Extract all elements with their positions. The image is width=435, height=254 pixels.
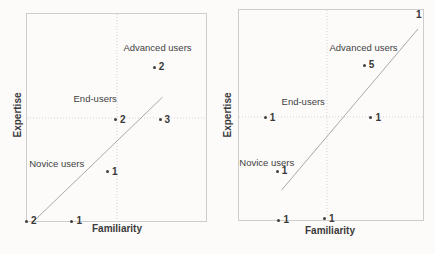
point-dot-icon [264,116,267,119]
region-label: Advanced users [330,41,398,52]
point-dot-icon [363,64,366,67]
scatter-figure: Expertise Advanced usersEnd-usersNovice … [0,0,435,254]
data-point: 1 [323,214,335,224]
data-point: 3 [159,115,171,125]
point-count-label: 1 [270,113,276,123]
data-point: 1 [277,215,289,225]
point-count-label: 1 [416,10,422,20]
plot-area-right: Advanced usersEnd-usersNovice users15111… [238,9,424,221]
region-label: End-users [282,96,325,107]
point-count-label: 2 [159,62,165,72]
region-label: Novice users [29,158,84,169]
data-point: 1 [264,113,276,123]
region-label: Advanced users [123,41,191,52]
x-axis-label: Familiarity [305,225,355,236]
plot-area-left: Advanced usersEnd-usersNovice users22312… [26,13,207,222]
point-dot-icon [25,220,28,223]
y-axis-label: Expertise [12,92,23,137]
trend-line [282,29,419,190]
point-count-label: 5 [369,60,375,70]
point-dot-icon [276,170,279,173]
data-point: 1 [106,167,118,177]
point-dot-icon [70,220,73,223]
data-point: 1 [369,113,381,123]
point-count-label: 2 [120,115,126,125]
data-point: 5 [363,60,375,70]
point-dot-icon [277,219,280,222]
point-dot-icon [323,217,326,220]
point-dot-icon [159,118,162,121]
y-axis-label: Expertise [222,92,233,137]
data-point: 1 [416,10,422,20]
point-count-label: 2 [31,216,37,226]
point-count-label: 1 [76,216,82,226]
region-label: End-users [74,93,117,104]
data-point: 2 [114,115,126,125]
point-dot-icon [106,170,109,173]
data-point: 2 [153,62,165,72]
data-point: 2 [25,216,37,226]
point-count-label: 1 [375,113,381,123]
point-dot-icon [369,116,372,119]
point-count-label: 1 [112,167,118,177]
point-count-label: 3 [165,115,171,125]
data-point: 1 [276,166,288,176]
point-count-label: 1 [282,166,288,176]
x-axis-label: Familiarity [92,223,142,234]
point-dot-icon [153,66,156,69]
point-dot-icon [114,118,117,121]
data-point: 1 [70,216,82,226]
point-count-label: 1 [283,215,289,225]
point-count-label: 1 [329,214,335,224]
